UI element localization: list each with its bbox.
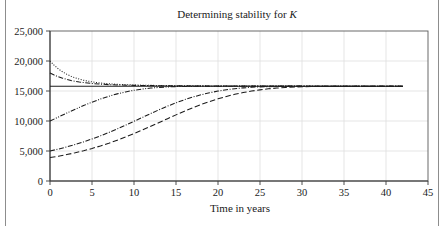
plot-border (50, 31, 428, 181)
x-tick-label: 45 (423, 187, 434, 198)
y-tick-label: 10,000 (14, 116, 43, 127)
y-tick-label: 5,000 (19, 146, 43, 157)
x-tick-label: 0 (47, 187, 52, 198)
x-tick-label: 20 (213, 187, 224, 198)
curve-initial-3900-dashed (50, 86, 403, 157)
figure-container: 05,00010,00015,00020,00025,000 051015202… (0, 0, 444, 226)
stability-chart: 05,00010,00015,00020,00025,000 051015202… (0, 0, 444, 226)
tick-marks-group (46, 31, 428, 185)
x-tick-label: 30 (297, 187, 308, 198)
curve-initial-10000-dashdotdot (50, 86, 403, 121)
chart-title-symbol: K (288, 8, 297, 20)
y-tick-label: 15,000 (14, 86, 43, 97)
x-tick-label: 15 (171, 187, 182, 198)
x-tick-label: 10 (129, 187, 140, 198)
y-tick-label: 25,000 (14, 26, 43, 37)
chart-title-text: Determining stability for (177, 8, 289, 20)
curve-initial-20000-dotted (50, 61, 403, 86)
curve-initial-18000-dashdot (50, 73, 403, 86)
x-tick-label: 25 (255, 187, 266, 198)
curves-group (50, 61, 403, 158)
x-tick-label: 35 (339, 187, 350, 198)
y-axis-tick-labels: 05,00010,00015,00020,00025,000 (14, 26, 43, 187)
gridlines-group (50, 31, 428, 181)
x-tick-label: 40 (381, 187, 392, 198)
plot-area-border (50, 31, 428, 181)
chart-title: Determining stability for K (177, 8, 297, 20)
axes-group (50, 31, 428, 181)
x-axis-title: Time in years (210, 202, 270, 214)
y-tick-label: 0 (38, 176, 43, 187)
x-tick-label: 5 (89, 187, 94, 198)
x-axis-tick-labels: 051015202530354045 (47, 187, 433, 198)
y-tick-label: 20,000 (14, 56, 43, 67)
